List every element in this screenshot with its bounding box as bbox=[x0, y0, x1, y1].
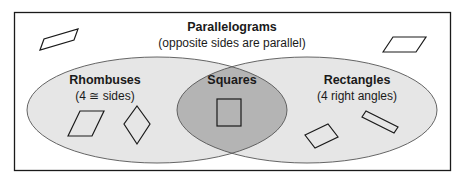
rectangles-subtitle: (4 right angles) bbox=[317, 89, 397, 103]
venn-diagram: Parallelograms (opposite sides are paral… bbox=[0, 0, 460, 182]
squares-title: Squares bbox=[207, 73, 256, 87]
rhombuses-subtitle: (4 ≅ sides) bbox=[75, 89, 134, 103]
parallelograms-subtitle: (opposite sides are parallel) bbox=[158, 36, 305, 50]
rhombuses-title: Rhombuses bbox=[69, 73, 141, 87]
rectangles-title: Rectangles bbox=[324, 73, 391, 87]
parallelograms-title: Parallelograms bbox=[187, 20, 277, 34]
